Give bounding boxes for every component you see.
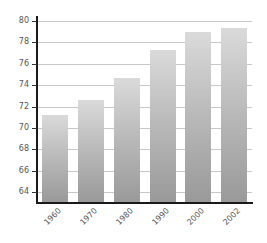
y-tick-mark xyxy=(32,64,37,65)
y-tick-label: 70 xyxy=(7,123,29,133)
x-tick-label: 1990 xyxy=(147,203,175,231)
bar-2002 xyxy=(221,28,247,203)
gridline xyxy=(37,107,252,108)
gridline xyxy=(37,149,252,150)
x-tick-label: 1970 xyxy=(75,203,103,231)
y-tick-label: 72 xyxy=(7,102,29,112)
x-tick-label: 1980 xyxy=(111,203,139,231)
y-tick-label: 74 xyxy=(7,80,29,90)
gridline xyxy=(37,192,252,193)
bar-chart: 646668707274767880 196019701980199020002… xyxy=(0,0,267,243)
gridline xyxy=(37,21,252,22)
y-tick-mark xyxy=(32,149,37,150)
x-axis xyxy=(36,202,253,204)
gridline xyxy=(37,42,252,43)
y-tick-mark xyxy=(32,192,37,193)
bar-1990 xyxy=(150,50,176,203)
x-tick-label: 1960 xyxy=(39,203,67,231)
y-tick-mark xyxy=(32,42,37,43)
y-tick-label: 78 xyxy=(7,37,29,47)
x-tick-label: 2000 xyxy=(182,203,210,231)
bar-1980 xyxy=(114,78,140,203)
bar-1960 xyxy=(42,115,68,203)
x-tick-label: 2002 xyxy=(218,203,246,231)
y-tick-label: 80 xyxy=(7,16,29,26)
y-tick-mark xyxy=(32,21,37,22)
gridline xyxy=(37,85,252,86)
y-tick-label: 68 xyxy=(7,144,29,154)
gridline xyxy=(37,171,252,172)
y-tick-label: 64 xyxy=(7,187,29,197)
bar-2000 xyxy=(185,32,211,203)
y-tick-mark xyxy=(32,85,37,86)
gridline xyxy=(37,64,252,65)
y-tick-mark xyxy=(32,128,37,129)
y-tick-label: 76 xyxy=(7,59,29,69)
gridline xyxy=(37,128,252,129)
y-axis xyxy=(36,16,38,204)
y-tick-label: 66 xyxy=(7,166,29,176)
y-tick-mark xyxy=(32,171,37,172)
bar-1970 xyxy=(78,100,104,203)
y-tick-mark xyxy=(32,107,37,108)
